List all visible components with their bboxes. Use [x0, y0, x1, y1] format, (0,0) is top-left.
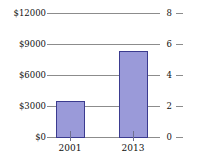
right-axis-tick-label-8: 8 — [156, 9, 172, 18]
right-axis-tick-label-0: 0 — [156, 133, 172, 142]
x-tick-2001 — [70, 131, 71, 141]
left-axis-tick-label-6000: $6000 — [19, 71, 46, 80]
right-axis-tick-2 — [176, 106, 183, 107]
right-axis-tick-label-4: 4 — [156, 71, 172, 80]
right-axis-tick-8 — [176, 13, 183, 14]
right-axis-tick-4 — [176, 75, 183, 76]
right-axis-tick-label-6: 6 — [156, 40, 172, 49]
right-axis: 8 6 4 2 0 — [156, 0, 198, 160]
bar-2013 — [119, 51, 148, 138]
left-axis-tick-label-9000: $9000 — [19, 40, 46, 49]
left-axis-tick-label-0: $0 — [35, 133, 46, 142]
gridline-12000 — [47, 13, 160, 14]
gridline-9000 — [47, 44, 160, 45]
x-axis-label-2013: 2013 — [122, 144, 145, 153]
right-axis-tick-0 — [176, 137, 183, 138]
right-axis-tick-label-2: 2 — [156, 102, 172, 111]
x-axis-label-2001: 2001 — [59, 144, 82, 153]
left-axis-tick-label-3000: $3000 — [19, 102, 46, 111]
right-axis-tick-6 — [176, 44, 183, 45]
left-axis: $12000 $9000 $6000 $3000 $0 — [0, 0, 46, 160]
left-axis-tick-label-12000: $12000 — [14, 9, 46, 18]
bar-chart: $12000 $9000 $6000 $3000 $0 2001 2013 8 … — [0, 0, 198, 160]
x-tick-2013 — [133, 131, 134, 141]
